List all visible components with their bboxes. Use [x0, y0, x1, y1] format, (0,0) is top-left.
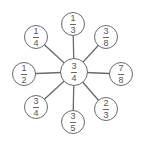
node-left: 1 2 — [12, 62, 36, 86]
fraction-numerator: 1 — [33, 27, 38, 36]
fraction-denominator: 5 — [70, 124, 75, 133]
fraction-denominator: 8 — [103, 39, 108, 48]
fraction-numerator: 3 — [103, 27, 108, 36]
fraction-numerator: 1 — [70, 14, 75, 23]
fraction-numerator: 3 — [70, 112, 75, 121]
node-top: 1 3 — [61, 12, 85, 36]
fraction-denominator: 8 — [118, 76, 123, 85]
fraction-star-diagram: 3 4 1 3 3 8 7 8 2 3 3 5 3 4 1 2 1 — [0, 0, 142, 144]
node-right: 7 8 — [109, 62, 133, 86]
fraction-denominator: 3 — [70, 26, 75, 35]
node-bottom-right: 2 3 — [94, 97, 118, 121]
node-top-right: 3 8 — [94, 25, 118, 49]
node-top-left: 1 4 — [24, 25, 48, 49]
fraction-numerator: 2 — [103, 99, 108, 108]
fraction-denominator: 4 — [71, 74, 76, 83]
fraction-numerator: 1 — [21, 64, 26, 73]
fraction-numerator: 3 — [33, 97, 38, 106]
center-node: 3 4 — [60, 58, 88, 86]
fraction-numerator: 7 — [118, 64, 123, 73]
fraction-denominator: 3 — [103, 111, 108, 120]
fraction-denominator: 2 — [21, 76, 26, 85]
fraction-numerator: 3 — [71, 62, 76, 71]
node-bottom: 3 5 — [61, 110, 85, 134]
fraction-denominator: 4 — [33, 109, 38, 118]
node-bottom-left: 3 4 — [24, 95, 48, 119]
fraction-denominator: 4 — [33, 39, 38, 48]
